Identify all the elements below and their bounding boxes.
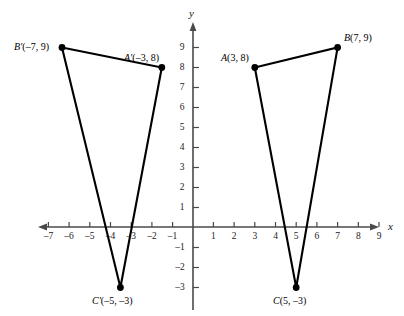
vertex-label-a: A(3, 8) [221,53,249,63]
vertex-label-b-prime-coords: (–7, 9) [22,41,49,52]
y-tick-label-2: 2 [176,183,188,193]
vertex-label-a-prime: A′(–3, 8) [124,53,159,63]
vertex-label-b: B(7, 9) [344,33,372,43]
y-axis-label: y [189,8,194,19]
x-tick-label-6: 6 [311,232,323,242]
y-tick-label-neg3: –3 [172,283,188,293]
vertex-label-a-coords: (3, 8) [227,52,249,63]
x-tick-label-5: 5 [290,232,302,242]
x-tick-label-9: 9 [373,232,385,242]
y-tick-label-neg2: –2 [172,263,188,273]
vertex-label-c-prime-coords: (–5, –3) [101,295,133,306]
vertex-label-c-coords: (5, –3) [280,295,307,306]
x-tick-label-2: 2 [228,232,240,242]
vertex-label-b-coords: (7, 9) [350,32,372,43]
x-tick-label-neg4: –4 [104,232,118,242]
x-axis-label: x [388,221,393,232]
x-tick-label-8: 8 [352,232,364,242]
x-tick-label-neg7: –7 [41,232,55,242]
x-tick-label-4: 4 [270,232,282,242]
vertex-label-b-prime: B′(–7, 9) [14,42,49,52]
vertex-dot-a-prime [158,64,165,71]
vertex-label-c: C(5, –3) [273,296,306,306]
vertex-dot-c [293,284,300,291]
x-tick-label-neg2: –2 [145,232,159,242]
vertex-label-c-prime-name: C [92,295,99,306]
graph-canvas [0,0,404,316]
vertex-dot-b-prime [59,44,66,51]
y-tick-label-6: 6 [176,103,188,113]
x-tick-label-neg5: –5 [83,232,97,242]
y-tick-label-neg1: –1 [172,243,188,253]
y-tick-label-9: 9 [176,43,188,53]
y-tick-label-4: 4 [176,143,188,153]
x-tick-label-3: 3 [249,232,261,242]
vertex-label-a-prime-coords: (–3, 8) [132,52,159,63]
vertex-label-c-name: C [273,295,280,306]
y-axis [190,22,197,310]
x-tick-label-1: 1 [207,232,219,242]
vertex-label-c-prime: C′(–5, –3) [92,296,133,306]
vertex-dot-a [251,64,258,71]
x-tick-label-neg6: –6 [62,232,76,242]
x-tick-label-7: 7 [332,232,344,242]
triangle-abc [251,44,341,291]
y-tick-label-5: 5 [176,123,188,133]
x-tick-label-neg1: –1 [166,232,180,242]
y-tick-label-8: 8 [176,63,188,73]
y-tick-label-1: 1 [176,203,188,213]
y-tick-label-7: 7 [176,83,188,93]
vertex-dot-b [334,44,341,51]
triangle-a-prime-b-prime-c-prime [59,44,166,291]
x-axis [38,224,379,231]
vertex-dot-c-prime [117,284,124,291]
y-axis-ticks [193,48,199,288]
x-tick-label-neg3: –3 [124,232,138,242]
coordinate-plane-figure: x y –7 –6 –5 –4 –3 –2 –1 1 2 3 4 5 6 7 8… [0,0,404,316]
y-tick-label-3: 3 [176,163,188,173]
